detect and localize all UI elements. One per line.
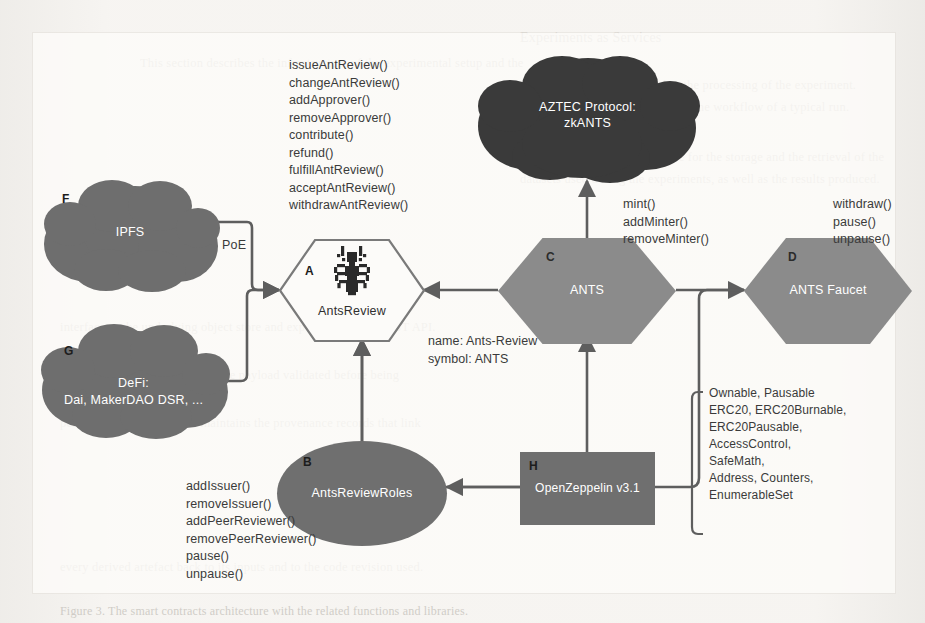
node-tag-f: F	[62, 192, 69, 206]
node-openzeppelin[interactable]: H OpenZeppelin v3.1	[520, 452, 655, 525]
node-defi[interactable]: G DeFi: Dai, MakerDAO DSR, ...	[36, 318, 231, 440]
diagram-canvas: AZTEC Protocol: zkANTS F I	[0, 0, 925, 623]
annotation-roles-functions: addIssuer() removeIssuer() addPeerReview…	[186, 478, 317, 583]
rectangle-shape-openzeppelin	[520, 452, 655, 525]
node-ants[interactable]: C ANTS	[498, 238, 676, 344]
node-tag-d: D	[788, 250, 797, 264]
cloud-shape-defi	[36, 318, 231, 440]
annotation-openzeppelin-libraries: Ownable, Pausable ERC20, ERC20Burnable, …	[709, 385, 847, 504]
node-tag-g: G	[64, 344, 73, 358]
annotation-antsreview-functions: issueAntReview() changeAntReview() addAp…	[289, 57, 408, 215]
annotation-token-meta: name: Ants-Review symbol: ANTS	[428, 333, 537, 368]
hexagon-shape-faucet	[744, 238, 912, 344]
brace-openzeppelin-libraries	[692, 392, 703, 534]
cloud-shape-aztec	[470, 48, 705, 183]
node-ipfs[interactable]: F IPFS	[40, 174, 220, 294]
annotation-ants-functions: mint() addMinter() removeMinter()	[623, 196, 709, 249]
node-antsreview[interactable]: A	[278, 238, 426, 343]
edge-ipfs-to-antsreview	[213, 222, 279, 290]
edge-label-poe: PoE	[222, 238, 246, 252]
node-tag-b: B	[303, 455, 312, 469]
node-tag-a: A	[305, 264, 314, 278]
hexagon-shape-ants	[498, 238, 676, 344]
node-ants-faucet[interactable]: D ANTS Faucet	[744, 238, 912, 344]
edge-defi-to-antsreview	[224, 290, 279, 381]
ant-logo-icon	[329, 246, 375, 296]
scanned-page-background: Experiments as Services This section des…	[0, 0, 925, 623]
annotation-faucet-functions: withdraw() pause() unpause()	[833, 196, 892, 249]
node-tag-h: H	[529, 459, 538, 473]
node-aztec-protocol[interactable]: AZTEC Protocol: zkANTS	[470, 48, 705, 183]
node-tag-c: C	[546, 250, 555, 264]
